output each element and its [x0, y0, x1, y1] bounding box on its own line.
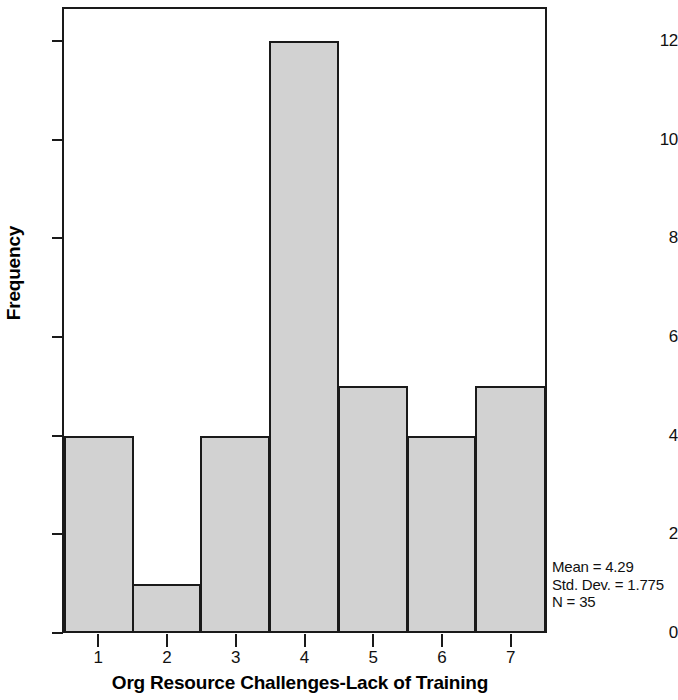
y-axis-tick — [52, 139, 63, 141]
x-axis-tick — [510, 634, 512, 647]
x-axis-tick-label: 6 — [422, 648, 462, 667]
histogram-bar — [132, 584, 202, 633]
x-axis-tick — [372, 634, 374, 647]
y-axis-tick-label: 2 — [634, 525, 678, 542]
stat-std-dev: Std. Dev. = 1.775 — [552, 576, 678, 594]
x-axis-tick-label: 4 — [285, 648, 325, 667]
x-axis-tick-label: 5 — [353, 648, 393, 667]
x-axis-tick-label: 1 — [78, 648, 118, 667]
x-axis-tick — [441, 634, 443, 647]
stat-n: N = 35 — [552, 593, 678, 611]
histogram-bar — [269, 41, 339, 633]
x-axis-tick-label: 3 — [216, 648, 256, 667]
y-axis-tick — [52, 237, 63, 239]
y-axis-tick-label: 12 — [634, 32, 678, 49]
histogram-bar — [407, 436, 477, 633]
y-axis-tick — [52, 435, 63, 437]
y-axis-tick-label: 8 — [634, 229, 678, 246]
y-axis-tick-label: 6 — [634, 328, 678, 345]
y-axis-title: Frequency — [3, 223, 25, 323]
histogram-bar — [338, 386, 408, 633]
histogram-bar — [475, 386, 546, 633]
statistics-annotation: Mean = 4.29 Std. Dev. = 1.775 N = 35 — [552, 558, 678, 611]
x-axis-tick — [166, 634, 168, 647]
y-axis-tick — [52, 336, 63, 338]
y-axis-tick-label: 0 — [634, 624, 678, 641]
x-axis-tick-label: 7 — [491, 648, 531, 667]
y-axis-tick-label: 4 — [634, 427, 678, 444]
histogram-bar — [200, 436, 270, 633]
y-axis-tick — [52, 632, 63, 634]
stat-mean: Mean = 4.29 — [552, 558, 678, 576]
x-axis-tick — [304, 634, 306, 647]
histogram-chart: 024681012 Frequency 1234567 Org Resource… — [0, 0, 678, 700]
x-axis-tick — [235, 634, 237, 647]
x-axis-title: Org Resource Challenges-Lack of Training — [0, 672, 600, 694]
x-axis-tick-label: 2 — [147, 648, 187, 667]
y-axis-tick — [52, 40, 63, 42]
bars-layer — [64, 9, 545, 633]
y-axis-tick-label: 10 — [634, 131, 678, 148]
y-axis-tick — [52, 533, 63, 535]
x-axis-tick — [97, 634, 99, 647]
histogram-bar — [64, 436, 134, 633]
